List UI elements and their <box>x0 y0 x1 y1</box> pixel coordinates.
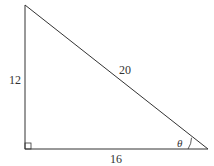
hypotenuse-label: 20 <box>119 63 131 77</box>
right-triangle <box>25 5 208 149</box>
right-angle-marker <box>25 143 31 149</box>
triangle-diagram: 12 20 16 θ <box>0 0 214 166</box>
left-side-label: 12 <box>9 73 21 87</box>
angle-theta-label: θ <box>177 137 183 149</box>
bottom-side-label: 16 <box>110 152 122 166</box>
triangle-svg: 12 20 16 θ <box>0 0 214 166</box>
angle-arc <box>188 138 192 149</box>
